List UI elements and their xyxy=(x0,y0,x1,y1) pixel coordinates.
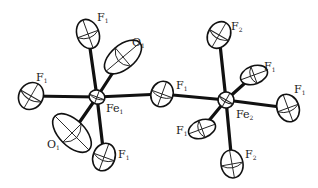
atom-label-f1-right: F1 xyxy=(294,83,305,96)
atom-f1-lowerleft xyxy=(186,116,218,142)
atom-label-f1-left: F1 xyxy=(36,71,47,84)
atom-label-f2-top: F2 xyxy=(231,20,243,33)
atom-label-f1-lowerleft: F1 xyxy=(176,124,187,137)
atom-label-o1-top: O1 xyxy=(132,36,145,49)
atom-label-f1-bottom: F1 xyxy=(118,148,129,161)
atom-f1-bottom xyxy=(89,140,119,174)
atom-label-o1-bottom: O1 xyxy=(47,138,60,151)
atom-label-fe2: Fe2 xyxy=(236,108,254,121)
atom-label-f2-bottom: F2 xyxy=(245,148,257,161)
atom-label-f1-top: F1 xyxy=(97,11,108,24)
atom-label-f1-bridge: F1 xyxy=(176,79,187,92)
molecular-structure-diagram: Fe1Fe2F1F1F1O1O1F1F2F1F1F1F2 xyxy=(0,0,318,188)
atom-label-f1-upperright: F1 xyxy=(264,60,275,73)
atom-o1-bottom xyxy=(46,107,98,159)
atom-label-fe1: Fe1 xyxy=(106,102,123,115)
atom-f1-right xyxy=(273,91,303,125)
atom-f2-bottom xyxy=(219,148,246,179)
atom-f1-bridge xyxy=(147,78,177,110)
atom-fe1 xyxy=(87,88,107,107)
